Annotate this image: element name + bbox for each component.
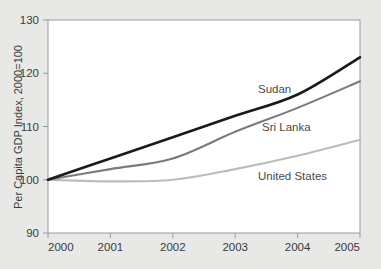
series-label-sudan: Sudan (258, 83, 291, 95)
line-chart: 90100110120130 200020012002200320042005 … (0, 0, 381, 269)
y-tick-label: 90 (26, 227, 39, 239)
x-tick-label: 2000 (48, 241, 74, 253)
y-tick-label: 130 (20, 14, 39, 26)
x-tick-label: 2005 (334, 241, 360, 253)
x-tick-label: 2001 (98, 241, 124, 253)
series-label-united-states: United States (258, 170, 327, 182)
x-tick-label: 2002 (160, 241, 186, 253)
y-axis-title: Per Capita GDP Index, 2000=100 (12, 45, 24, 209)
x-tick-label: 2003 (222, 241, 248, 253)
series-label-sri-lanka: Sri Lanka (262, 121, 311, 133)
x-tick-label: 2004 (285, 241, 311, 253)
chart-container: 90100110120130 200020012002200320042005 … (0, 0, 381, 269)
